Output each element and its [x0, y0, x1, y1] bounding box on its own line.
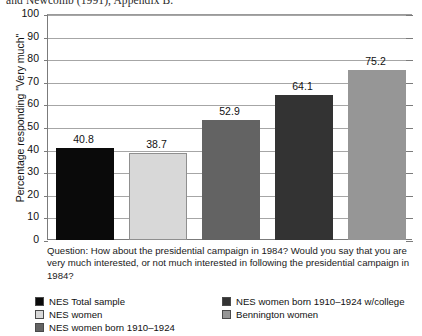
y-axis-tick [44, 105, 48, 106]
top-caption-text: and Newcomb (1991), Appendix B. [6, 0, 173, 6]
legend-item[interactable]: NES women born 1910–1924 [35, 322, 175, 333]
legend-item[interactable]: NES Total sample [35, 296, 125, 307]
y-axis-tick-label: 40 [9, 143, 39, 155]
y-axis-tick [44, 196, 48, 197]
legend-swatch-icon [222, 297, 231, 306]
bar-value-label: 64.1 [266, 80, 340, 92]
legend-label: Bennington women [236, 309, 318, 320]
legend-label: NES Total sample [49, 296, 125, 307]
y-axis-tick [44, 218, 48, 219]
y-axis-tick-label: 0 [9, 233, 39, 245]
bar-value-label: 38.7 [120, 138, 194, 150]
question-box: Question: How about the presidential cam… [47, 245, 412, 291]
bar-2 [129, 153, 187, 240]
y-axis-tick [44, 83, 48, 84]
y-axis-tick-label: 90 [9, 30, 39, 42]
y-axis-tick-right [406, 196, 413, 197]
legend-item[interactable]: NES women born 1910–1924 w/college [222, 296, 405, 307]
y-axis-tick-right [406, 151, 413, 152]
y-axis-tick-label: 80 [9, 52, 39, 64]
y-axis-tick [44, 241, 48, 242]
y-axis-tick-right [406, 173, 413, 174]
legend-label: NES women born 1910–1924 [49, 322, 175, 333]
bar-value-label: 52.9 [193, 105, 267, 117]
y-axis-tick-right [406, 128, 413, 129]
legend-label: NES women [49, 309, 102, 320]
y-axis-tick-label: 60 [9, 97, 39, 109]
y-axis-tick-label: 10 [9, 210, 39, 222]
y-axis-tick-right [406, 15, 413, 16]
legend-swatch-icon [35, 310, 44, 319]
bar-value-label: 75.2 [339, 55, 413, 67]
y-axis-tick-label: 30 [9, 165, 39, 177]
y-axis-tick [44, 15, 48, 16]
gridline [48, 38, 412, 39]
y-axis-tick [44, 151, 48, 152]
bar-5 [348, 70, 406, 240]
y-axis-tick-label: 70 [9, 75, 39, 87]
y-axis-tick-right [406, 38, 413, 39]
y-axis-tick-label: 20 [9, 188, 39, 200]
bar-value-label: 40.8 [47, 133, 121, 145]
y-axis-tick-right [406, 83, 413, 84]
question-text: Question: How about the presidential cam… [47, 245, 412, 282]
legend-swatch-icon [35, 323, 44, 332]
bar-1 [56, 148, 114, 240]
chart-legend: NES Total sampleNES womenNES women born … [35, 296, 420, 334]
y-axis-tick-label: 50 [9, 120, 39, 132]
legend-item[interactable]: Bennington women [222, 309, 318, 320]
y-axis-tick [44, 173, 48, 174]
y-axis-tick-right [406, 241, 413, 242]
y-axis-tick [44, 60, 48, 61]
bar-3 [202, 120, 260, 240]
y-axis-tick [44, 128, 48, 129]
legend-swatch-icon [35, 297, 44, 306]
y-axis-tick-right [406, 105, 413, 106]
figure-container: and Newcomb (1991), Appendix B. Percenta… [0, 0, 422, 336]
legend-swatch-icon [222, 310, 231, 319]
legend-item[interactable]: NES women [35, 309, 102, 320]
bar-4 [275, 95, 333, 240]
legend-label: NES women born 1910–1924 w/college [236, 296, 405, 307]
y-axis-tick [44, 38, 48, 39]
y-axis-tick-right [406, 218, 413, 219]
gridline [48, 15, 412, 16]
y-axis-tick-label: 100 [9, 7, 39, 19]
plot-area [47, 14, 412, 240]
